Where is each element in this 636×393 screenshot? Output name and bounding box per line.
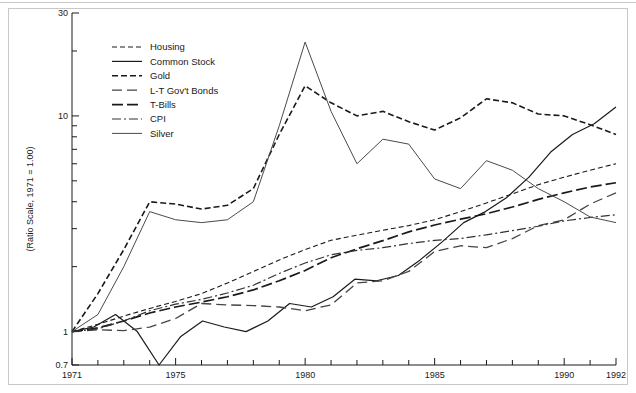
y-axis-label-text: (Ratio Scale, 1971 = 1.00): [25, 147, 35, 252]
x-tick-label: 1980: [295, 370, 315, 380]
legend-label-cpi: CPI: [150, 113, 166, 124]
x-tick-label: 1992: [606, 370, 626, 380]
legend-label-silver: Silver: [150, 128, 174, 139]
y-tick-label: 1: [63, 327, 68, 337]
y-axis-tick-labels: 301010.7: [55, 8, 68, 370]
y-axis-ticks: [72, 13, 79, 365]
legend-label-gold: Gold: [150, 70, 170, 81]
chart-legend: HousingCommon StockGoldL-T Gov't BondsT-…: [112, 41, 218, 138]
series-line-l-t-gov-t-bonds: [72, 193, 616, 332]
y-tick-label: 10: [58, 111, 68, 121]
legend-label-t-bills: T-Bills: [150, 99, 176, 110]
x-axis-ticks: [72, 358, 616, 365]
series-line-cpi: [72, 215, 616, 332]
x-tick-label: 1990: [554, 370, 574, 380]
ratio-scale-line-chart: 301010.7 197119751980198519901992 Housin…: [0, 0, 636, 393]
y-tick-label: 0.7: [55, 360, 68, 370]
series-line-housing: [72, 164, 616, 332]
legend-label-l-t-gov-t-bonds: L-T Gov't Bonds: [150, 85, 218, 96]
x-tick-label: 1975: [166, 370, 186, 380]
x-tick-label: 1971: [62, 370, 82, 380]
legend-label-housing: Housing: [150, 41, 185, 52]
y-tick-label: 30: [58, 8, 68, 18]
y-axis-label: (Ratio Scale, 1971 = 1.00): [25, 147, 35, 252]
chart-page: 301010.7 197119751980198519901992 Housin…: [0, 0, 636, 393]
legend-label-common-stock: Common Stock: [150, 56, 215, 67]
x-axis-tick-labels: 197119751980198519901992: [62, 370, 626, 380]
x-tick-label: 1985: [425, 370, 445, 380]
